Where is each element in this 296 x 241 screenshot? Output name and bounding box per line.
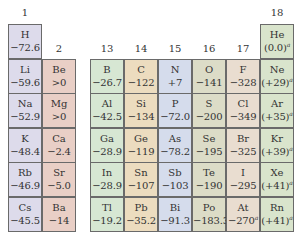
- value-text: −78.2: [160, 146, 190, 157]
- value-text: −28.9: [92, 146, 122, 157]
- element-cell-i: I−295: [226, 162, 260, 197]
- group-number-2: 2: [42, 43, 76, 54]
- footnote-marker: a: [289, 179, 292, 186]
- footnote-marker: a: [287, 41, 290, 48]
- element-symbol: P: [159, 97, 191, 110]
- electron-affinity-value: −28.9: [91, 179, 123, 192]
- element-symbol: He: [261, 28, 293, 41]
- element-symbol: Na: [9, 97, 41, 110]
- value-text: −14: [49, 215, 70, 226]
- element-symbol: Kr: [261, 132, 293, 145]
- element-symbol: Si: [125, 97, 157, 110]
- element-cell-se: Se−195: [192, 128, 226, 163]
- element-symbol: Se: [193, 132, 225, 145]
- value-text: −46.9: [10, 180, 40, 191]
- electron-affinity-value: (0.0)a: [261, 41, 293, 54]
- group-number-15: 15: [158, 43, 192, 54]
- element-symbol: Rb: [9, 166, 41, 179]
- element-symbol: K: [9, 132, 41, 145]
- electron-affinity-value: −78.2: [159, 145, 191, 158]
- element-cell-in: In−28.9: [90, 162, 124, 197]
- element-symbol: H: [9, 28, 41, 41]
- electron-affinity-value: −45.5: [9, 214, 41, 227]
- value-text: −28.9: [92, 180, 122, 191]
- footnote-marker: a: [289, 214, 292, 221]
- electron-affinity-value: −195: [193, 145, 225, 158]
- electron-affinity-value: −328: [227, 76, 259, 89]
- element-symbol: I: [227, 166, 259, 179]
- element-symbol: Li: [9, 63, 41, 76]
- element-cell-tl: Tl−19.2: [90, 197, 124, 232]
- electron-affinity-value: (+41)a: [261, 214, 293, 227]
- value-text: −103: [162, 180, 189, 191]
- value-text: (+41): [261, 180, 289, 191]
- element-cell-as: As−78.2: [158, 128, 192, 163]
- element-cell-cl: Cl−349: [226, 93, 260, 128]
- element-cell-ca: Ca−2.4: [42, 128, 76, 163]
- electron-affinity-value: −72.6: [9, 41, 41, 54]
- group-number-17: 17: [226, 43, 260, 54]
- electron-affinity-value: −134: [125, 110, 157, 123]
- element-cell-be: Be>0: [42, 59, 76, 94]
- value-text: −72.0: [160, 111, 190, 122]
- group-number-13: 13: [90, 43, 124, 54]
- element-symbol: Xe: [261, 166, 293, 179]
- value-text: −2.4: [47, 146, 70, 157]
- footnote-marker: a: [255, 214, 258, 221]
- electron-affinity-value: −103: [159, 179, 191, 192]
- electron-affinity-value: −28.9: [91, 145, 123, 158]
- electron-affinity-value: −200: [193, 110, 225, 123]
- value-text: −195: [196, 146, 223, 157]
- value-text: −42.5: [92, 111, 122, 122]
- value-text: −52.9: [10, 111, 40, 122]
- element-cell-kr: Kr(+39)a: [260, 128, 294, 163]
- value-text: >0: [52, 111, 66, 122]
- element-symbol: Br: [227, 132, 259, 145]
- value-text: −134: [128, 111, 155, 122]
- element-cell-sr: Sr−5.0: [42, 162, 76, 197]
- value-text: −59.6: [10, 77, 40, 88]
- element-symbol: Ge: [125, 132, 157, 145]
- footnote-marker: a: [289, 110, 292, 117]
- element-cell-rn: Rn(+41)a: [260, 197, 294, 232]
- electron-affinity-value: −91.3: [159, 214, 191, 227]
- element-symbol: Te: [193, 166, 225, 179]
- element-symbol: O: [193, 63, 225, 76]
- element-symbol: Ba: [43, 201, 75, 214]
- element-symbol: Sn: [125, 166, 157, 179]
- element-cell-al: Al−42.5: [90, 93, 124, 128]
- element-cell-n: N+7: [158, 59, 192, 94]
- electron-affinity-value: −5.0: [43, 179, 75, 192]
- element-symbol: As: [159, 132, 191, 145]
- electron-affinity-value: −295: [227, 179, 259, 192]
- element-cell-sn: Sn−107: [124, 162, 158, 197]
- value-text: −270: [228, 215, 255, 226]
- element-symbol: N: [159, 63, 191, 76]
- electron-affinity-value: −14: [43, 214, 75, 227]
- element-symbol: Ga: [91, 132, 123, 145]
- electron-affinity-value: −72.0: [159, 110, 191, 123]
- element-cell-rb: Rb−46.9: [8, 162, 42, 197]
- element-cell-bi: Bi−91.3: [158, 197, 192, 232]
- element-symbol: Ar: [261, 97, 293, 110]
- element-symbol: Ca: [43, 132, 75, 145]
- electron-affinity-value: −59.6: [9, 76, 41, 89]
- value-text: −200: [196, 111, 223, 122]
- value-text: −19.2: [92, 215, 122, 226]
- element-symbol: S: [193, 97, 225, 110]
- footnote-marker: a: [289, 145, 292, 152]
- value-text: −183.3: [193, 215, 229, 226]
- element-cell-ne: Ne(+29)a: [260, 59, 294, 94]
- element-cell-ga: Ga−28.9: [90, 128, 124, 163]
- electron-affinity-value: >0: [43, 110, 75, 123]
- value-text: −48.4: [10, 146, 40, 157]
- electron-affinity-value: +7: [159, 76, 191, 89]
- element-cell-o: O−141: [192, 59, 226, 94]
- group-number-14: 14: [124, 43, 158, 54]
- value-text: −107: [128, 180, 155, 191]
- value-text: −349: [230, 111, 257, 122]
- element-cell-po: Po−183.3: [192, 197, 226, 232]
- element-symbol: Al: [91, 97, 123, 110]
- element-cell-te: Te−190: [192, 162, 226, 197]
- element-symbol: At: [227, 201, 259, 214]
